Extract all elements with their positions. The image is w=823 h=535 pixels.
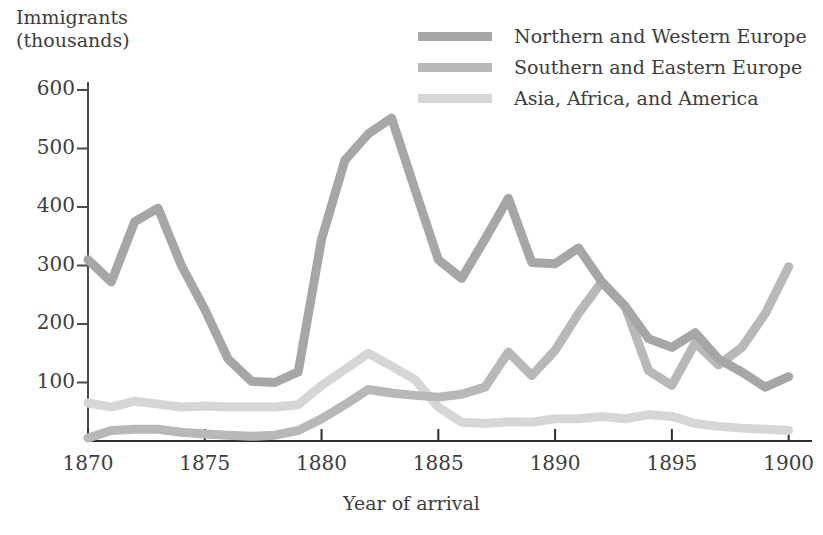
legend-label: Asia, Africa, and America (514, 87, 758, 109)
legend-item: Southern and Eastern Europe (418, 53, 807, 81)
x-tick-label: 1880 (272, 451, 372, 475)
legend-swatch (418, 63, 492, 72)
x-tick-label: 1895 (622, 451, 722, 475)
x-tick-label: 1885 (388, 451, 488, 475)
x-tick-label: 1870 (38, 451, 138, 475)
legend-label: Northern and Western Europe (514, 25, 807, 47)
y-tick-label: 600 (5, 76, 75, 100)
chart-legend: Northern and Western EuropeSouthern and … (418, 22, 807, 115)
y-tick-label: 500 (5, 135, 75, 159)
immigration-line-chart: Immigrants (thousands) 10020030040050060… (0, 0, 823, 535)
legend-swatch (418, 32, 492, 41)
x-tick-label: 1900 (739, 451, 823, 475)
x-tick-label: 1875 (155, 451, 255, 475)
y-tick-label: 300 (5, 252, 75, 276)
y-tick-label: 200 (5, 310, 75, 334)
y-tick-label: 100 (5, 369, 75, 393)
legend-item: Northern and Western Europe (418, 22, 807, 50)
x-axis-title: Year of arrival (0, 492, 823, 515)
y-tick-label: 400 (5, 193, 75, 217)
legend-label: Southern and Eastern Europe (514, 56, 802, 78)
legend-swatch (418, 94, 492, 103)
x-tick-label: 1890 (505, 451, 605, 475)
y-axis-title: Immigrants (thousands) (16, 6, 130, 52)
legend-item: Asia, Africa, and America (418, 84, 807, 112)
